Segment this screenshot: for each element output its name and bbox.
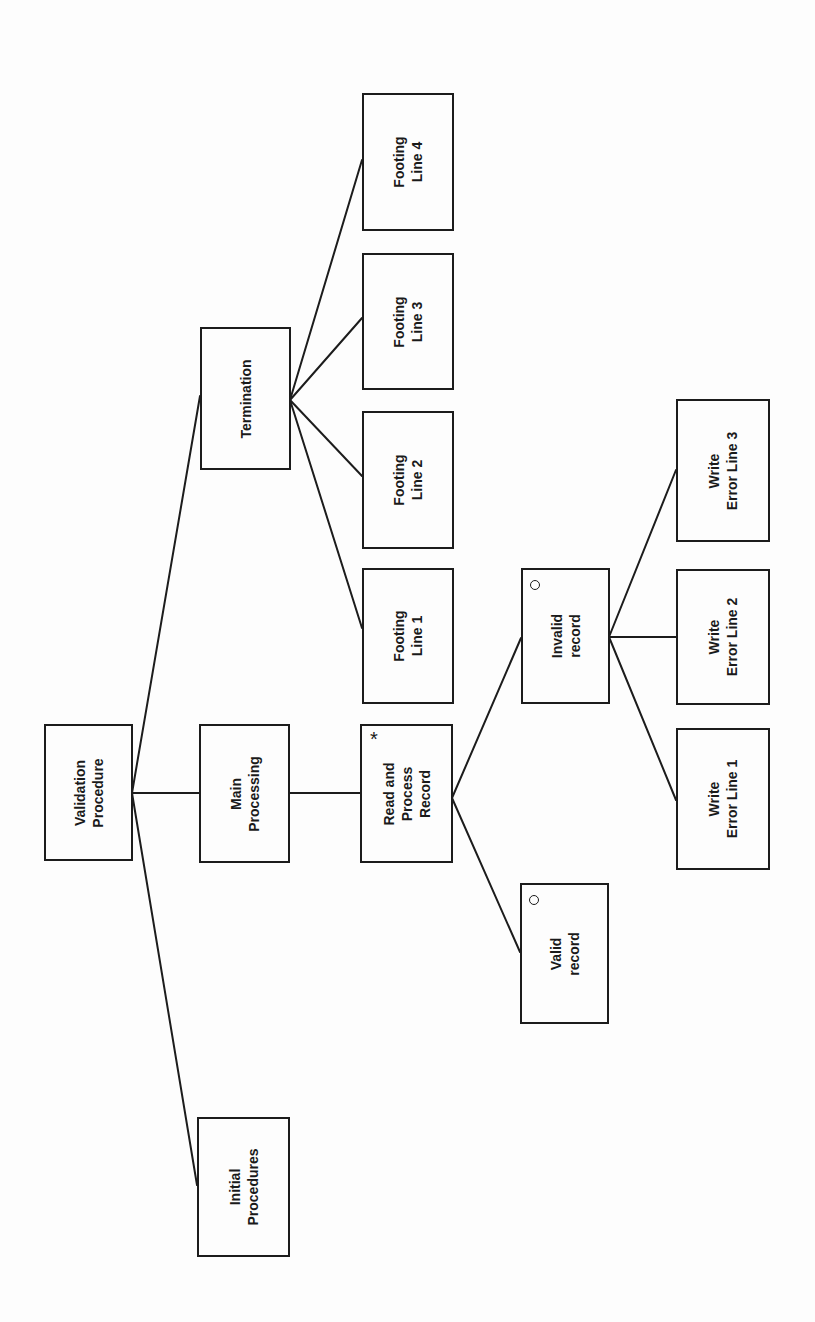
node-termination: Termination xyxy=(200,327,291,470)
node-label: Footing Line 2 xyxy=(390,454,426,505)
node-label: Read and Process Record xyxy=(380,762,434,825)
node-label: Write Error Line 1 xyxy=(705,760,741,839)
node-main-processing: Main Processing xyxy=(199,724,290,863)
node-footing-line-4: Footing Line 4 xyxy=(362,93,454,231)
selection-marker-icon xyxy=(530,580,540,590)
node-label: Footing Line 3 xyxy=(390,296,426,347)
node-label: Footing Line 1 xyxy=(390,610,426,661)
node-validation-procedure: Validation Procedure xyxy=(44,724,133,861)
node-label: Initial Procedures xyxy=(226,1148,262,1225)
node-label: Validation Procedure xyxy=(71,758,107,827)
node-valid-record: Valid record xyxy=(520,883,609,1024)
edge-termination-f2 xyxy=(290,400,362,476)
edge-termination-f4 xyxy=(290,160,362,400)
edge-read-valid xyxy=(452,798,520,952)
edge-termination-f3 xyxy=(290,318,362,400)
node-label: Write Error Line 3 xyxy=(705,431,741,510)
node-invalid-record: Invalid record xyxy=(521,568,610,704)
node-label: Invalid record xyxy=(548,614,584,658)
node-write-error-line-1: Write Error Line 1 xyxy=(676,728,770,870)
node-initial-procedures: Initial Procedures xyxy=(197,1117,290,1257)
node-label: Termination xyxy=(237,359,255,438)
node-write-error-line-2: Write Error Line 2 xyxy=(676,569,770,705)
node-footing-line-3: Footing Line 3 xyxy=(362,253,454,390)
edge-termination-f1 xyxy=(290,400,362,628)
node-write-error-line-3: Write Error Line 3 xyxy=(676,399,770,542)
edge-invalid-wel1 xyxy=(609,637,676,800)
selection-marker-icon xyxy=(529,895,539,905)
node-label: Write Error Line 2 xyxy=(705,598,741,677)
node-read-process-record: * Read and Process Record xyxy=(360,724,453,863)
node-label: Main Processing xyxy=(227,756,263,831)
node-label: Valid record xyxy=(547,932,583,976)
node-label: Footing Line 4 xyxy=(390,136,426,187)
node-footing-line-1: Footing Line 1 xyxy=(362,568,454,704)
edge-read-invalid xyxy=(452,638,521,798)
edge-validation-termination xyxy=(132,396,200,793)
node-footing-line-2: Footing Line 2 xyxy=(362,411,454,549)
iteration-marker-icon: * xyxy=(370,732,378,746)
edge-validation-initial xyxy=(132,793,197,1185)
edge-invalid-wel3 xyxy=(609,470,676,637)
